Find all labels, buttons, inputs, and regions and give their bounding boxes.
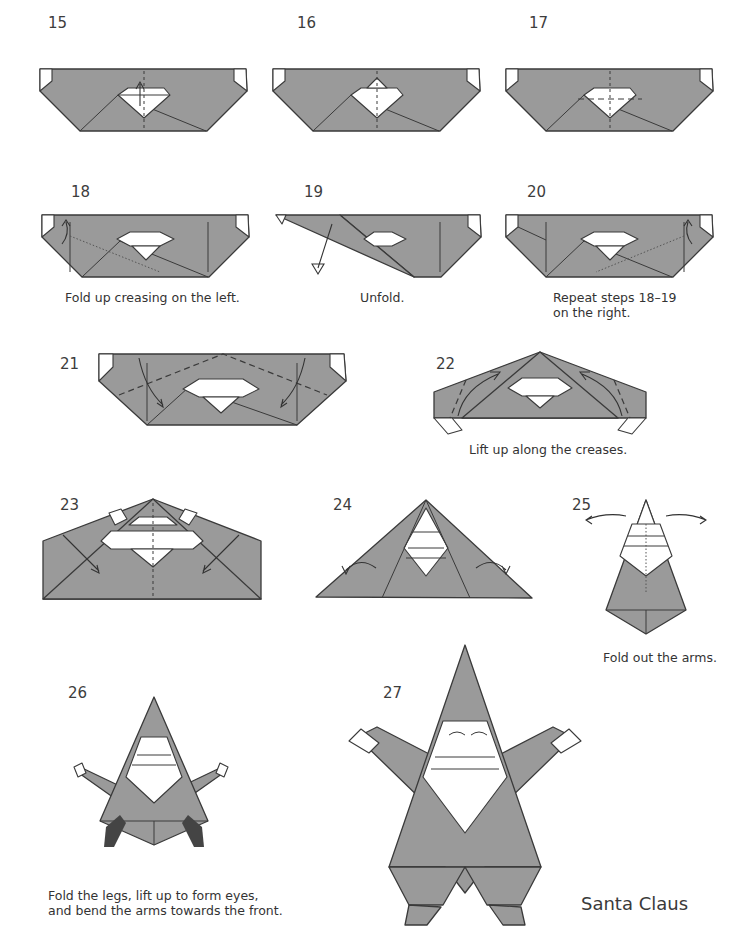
step-19-diagram [274, 214, 484, 278]
step-17-number: 17 [529, 14, 548, 32]
step-22-diagram [434, 352, 654, 432]
step-15-number: 15 [48, 14, 67, 32]
step-16-number: 16 [297, 14, 316, 32]
step-25-diagram [606, 500, 686, 636]
step-21-diagram [99, 353, 349, 429]
step-26-caption: Fold the legs, lift up to form eyes, and… [48, 888, 283, 918]
step-24-diagram [316, 500, 536, 604]
step-20-caption: Repeat steps 18–19 on the right. [553, 290, 677, 320]
step-22-caption: Lift up along the creases. [469, 442, 627, 457]
model-title: Santa Claus [581, 893, 688, 914]
step-20-number: 20 [527, 183, 546, 201]
step-23-diagram [43, 499, 263, 603]
step-25-number: 25 [572, 496, 591, 514]
step-19-number: 19 [304, 183, 323, 201]
step-26-diagram [66, 697, 236, 847]
step-16-diagram [273, 68, 483, 132]
step-21-number: 21 [60, 355, 79, 373]
step-19-caption: Unfold. [360, 290, 405, 305]
step-25-caption: Fold out the arms. [603, 650, 717, 665]
step-17-diagram [506, 68, 716, 132]
step-18-diagram [42, 214, 252, 278]
step-18-caption: Fold up creasing on the left. [65, 290, 240, 305]
step-18-number: 18 [71, 183, 90, 201]
step-15-diagram [40, 68, 250, 132]
step-27-diagram [345, 645, 585, 925]
step-20-diagram [506, 214, 716, 278]
